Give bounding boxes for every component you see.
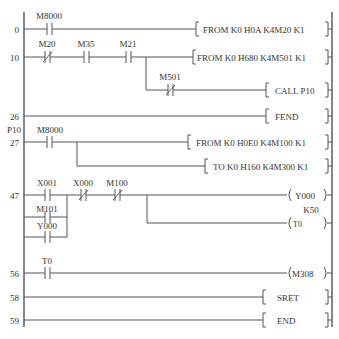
coil-label: M308 — [292, 269, 314, 279]
rung-10: 10 M20 M35 M21 FROM K0 H680 K4M501 K1 — [10, 39, 332, 97]
contact-label: M21 — [119, 39, 136, 49]
contact-label: T0 — [42, 256, 52, 266]
instruction-box: TO K0 H160 K4M300 K1 — [205, 159, 332, 173]
output-coil: Y000 — [289, 189, 332, 201]
step-number: 0 — [15, 25, 20, 35]
rung-27: P10 27 M8000 FROM K0 H0E0 K4M100 K1 TO K… — [7, 125, 332, 173]
rung-26: 26 FEND — [10, 109, 332, 123]
rung-47: 47 X001 X000 M100 Y000 — [10, 178, 332, 243]
contact-label: M100 — [106, 178, 128, 188]
timer-coil: K50 T0 — [289, 205, 332, 229]
step-number: 58 — [10, 293, 20, 303]
no-contact-icon — [47, 136, 52, 148]
no-contact-icon — [45, 189, 50, 201]
no-contact-icon — [45, 267, 50, 279]
step-number: 56 — [10, 269, 20, 279]
contact-label: M8000 — [36, 11, 63, 21]
pointer-label: P10 — [7, 125, 22, 135]
contact-label: M501 — [159, 72, 181, 82]
instruction-text: FROM K0 H680 K4M501 K1 — [197, 53, 306, 63]
no-contact-icon — [126, 51, 131, 63]
step-number: 47 — [10, 191, 20, 201]
instruction-box: FROM K0 H680 K4M501 K1 — [193, 50, 332, 64]
ladder-diagram: 0 M8000 FROM K0 H0A K4M20 K1 10 M20 — [0, 0, 339, 339]
instruction-box: SRET — [263, 290, 332, 304]
no-contact-icon — [47, 23, 52, 35]
contact-label: M101 — [36, 204, 58, 214]
instruction-text: FROM K0 H0E0 K4M100 K1 — [196, 138, 306, 148]
step-number: 26 — [10, 112, 20, 122]
instruction-text: FROM K0 H0A K4M20 K1 — [203, 25, 305, 35]
contact-label: M8000 — [37, 125, 64, 135]
no-contact-icon — [45, 231, 50, 243]
contact-label: X000 — [73, 178, 93, 188]
coil-label: Y000 — [295, 191, 315, 201]
instruction-text: TO K0 H160 K4M300 K1 — [213, 162, 308, 172]
rung-59: 59 END — [10, 313, 332, 327]
step-number: 27 — [10, 138, 20, 148]
contact-label: X001 — [37, 178, 57, 188]
rung-0: 0 M8000 FROM K0 H0A K4M20 K1 — [15, 11, 333, 36]
contact-label: M20 — [38, 39, 56, 49]
rung-56: 56 T0 M308 — [10, 256, 332, 279]
instruction-box: FEND — [266, 109, 332, 123]
instruction-box: END — [263, 313, 332, 327]
timer-setting: K50 — [303, 205, 319, 215]
contact-label: Y000 — [37, 221, 57, 231]
step-number: 10 — [10, 53, 20, 63]
output-coil: M308 — [289, 267, 332, 279]
no-contact-icon — [84, 51, 89, 63]
coil-label: T0 — [293, 220, 302, 229]
instruction-box: CALL P10 — [266, 83, 332, 97]
rung-58: 58 SRET — [10, 290, 332, 304]
step-number: 59 — [10, 316, 20, 326]
instruction-text: END — [277, 316, 296, 326]
instruction-text: FEND — [275, 112, 299, 122]
instruction-box: FROM K0 H0E0 K4M100 K1 — [188, 135, 332, 149]
instruction-text: SRET — [277, 293, 300, 303]
instruction-box: FROM K0 H0A K4M20 K1 — [196, 22, 332, 36]
instruction-text: CALL P10 — [275, 86, 315, 96]
contact-label: M35 — [77, 39, 95, 49]
